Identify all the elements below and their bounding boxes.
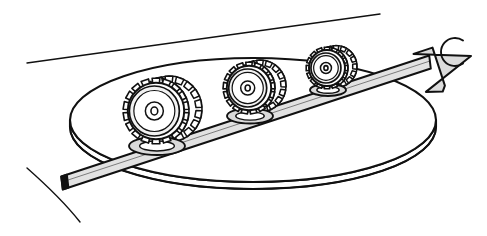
gear-wheel-large-axle-hole (151, 107, 158, 115)
gear-wheel-medium-axle-hole (245, 85, 250, 91)
gear-wheel-small-axle-hole (324, 66, 328, 71)
technical-line-illustration (0, 0, 487, 236)
illustration-root (0, 0, 487, 236)
